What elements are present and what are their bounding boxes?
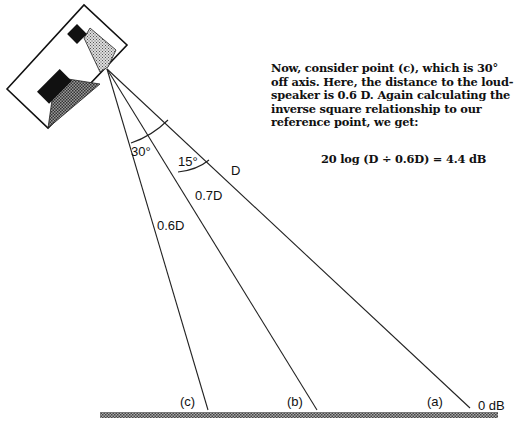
distance-label-a: D [231,163,240,178]
angle-label-15: 15° [178,154,198,169]
point-label-a: (a) [427,394,443,409]
point-label-b: (b) [287,394,303,409]
distance-label-b: 0.7D [195,188,222,203]
formula: 20 log (D ÷ 0.6D) = 4.4 dB [321,152,486,166]
loudspeaker-icon [7,5,127,128]
point-label-c: (c) [180,394,195,409]
ray-c [107,69,208,410]
arc-30 [131,120,168,143]
ground-plane [100,412,498,418]
reference-level-label: 0 dB [478,398,505,413]
distance-label-c: 0.6D [157,218,184,233]
angle-label-30: 30° [131,144,151,159]
explanation-paragraph: Now, consider point (c), which is 30° of… [271,62,517,130]
